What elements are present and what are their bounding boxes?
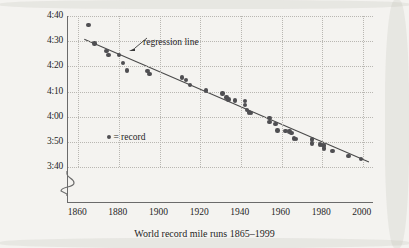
data-point <box>310 141 314 145</box>
gridline-vertical <box>200 16 201 167</box>
data-point <box>330 149 334 153</box>
gridline-horizontal <box>68 117 373 118</box>
data-point <box>275 128 279 132</box>
gridline-horizontal <box>68 66 373 67</box>
regression-line <box>68 16 373 202</box>
plot-area <box>67 16 372 202</box>
data-point <box>121 61 125 65</box>
x-tick-label: 1880 <box>98 207 138 217</box>
y-tick-label: 4:00 <box>31 111 63 121</box>
x-axis-line <box>67 202 373 203</box>
mile-run-regression-chart: Time (minutes : seconds) regression line… <box>0 0 409 248</box>
gridline-vertical <box>119 16 120 167</box>
data-point <box>346 154 350 158</box>
gridline-vertical <box>363 16 364 167</box>
data-point <box>289 131 293 135</box>
x-tick-label: 1920 <box>179 207 219 217</box>
axis-break-icon <box>58 170 78 196</box>
x-tick-label: 1940 <box>220 207 260 217</box>
x-tick-label: 1980 <box>301 207 341 217</box>
y-tick-label: 4:20 <box>31 60 63 70</box>
gridline-vertical <box>78 16 79 167</box>
data-point <box>92 41 96 45</box>
x-axis-title: World record mile runs 1865–1999 <box>0 228 409 239</box>
gridline-vertical <box>241 16 242 167</box>
data-point <box>106 53 110 57</box>
gridline-horizontal <box>68 167 373 168</box>
data-point <box>233 98 237 102</box>
x-tick-label: 2000 <box>342 207 382 217</box>
gridline-vertical <box>282 16 283 167</box>
data-point <box>86 23 90 27</box>
data-point <box>267 120 271 124</box>
y-tick-label: 4:10 <box>31 86 63 96</box>
paper-smudge <box>0 0 409 9</box>
data-point <box>273 122 277 126</box>
y-tick-label: 4:40 <box>31 10 63 20</box>
data-point <box>226 97 230 101</box>
data-point <box>147 72 151 76</box>
regression-line-annotation: regression line <box>143 37 199 47</box>
x-tick-label: 1900 <box>139 207 179 217</box>
legend: = record <box>107 132 145 142</box>
y-tick-label: 3:50 <box>31 136 63 146</box>
paper-smudge <box>0 238 409 248</box>
paper-smudge <box>385 0 409 248</box>
y-tick-label: 3:40 <box>31 161 63 171</box>
record-marker-icon <box>107 135 111 139</box>
x-tick-label: 1960 <box>261 207 301 217</box>
data-point <box>125 68 129 72</box>
legend-label: = record <box>113 132 145 142</box>
gridline-horizontal <box>68 16 373 17</box>
x-tick-label: 1860 <box>57 207 97 217</box>
gridline-horizontal <box>68 41 373 42</box>
y-tick-label: 4:30 <box>31 35 63 45</box>
